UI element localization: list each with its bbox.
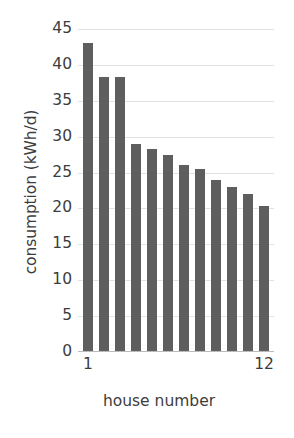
bar [179, 165, 189, 352]
bar-slot [240, 29, 256, 352]
bar [243, 194, 253, 352]
x-axis-line [78, 351, 274, 352]
x-tick-label: 1 [83, 356, 93, 373]
y-axis-tick-labels: 051015202530354045 [40, 0, 72, 438]
bar-slot [144, 29, 160, 352]
bar-slot [112, 29, 128, 352]
y-tick-label: 25 [52, 165, 72, 181]
bar-chart-figure: consumption (kWh/d) 051015202530354045 1… [0, 0, 294, 438]
y-tick-label: 40 [52, 57, 72, 73]
bar [83, 43, 93, 352]
y-tick-label: 10 [52, 272, 72, 288]
x-axis-tick-labels: 112 [78, 356, 274, 378]
bar-slot [176, 29, 192, 352]
bar-slot [128, 29, 144, 352]
x-tick-label: 12 [254, 356, 274, 373]
bar [211, 180, 221, 352]
x-axis-title: house number [0, 392, 294, 410]
y-tick-label: 45 [52, 21, 72, 37]
y-tick-label: 35 [52, 93, 72, 109]
bar [259, 206, 269, 352]
bar [131, 144, 141, 352]
bar [195, 169, 205, 352]
bar-slot [192, 29, 208, 352]
bar [163, 155, 173, 352]
bar [147, 149, 157, 352]
y-tick-label: 5 [62, 308, 72, 324]
bar [227, 187, 237, 352]
bar-slot [256, 29, 272, 352]
y-tick-label: 0 [62, 344, 72, 360]
y-tick-label: 20 [52, 201, 72, 217]
y-tick-label: 15 [52, 237, 72, 253]
bar-slot [208, 29, 224, 352]
bar-slot [80, 29, 96, 352]
bar-slot [224, 29, 240, 352]
bar [115, 77, 125, 352]
plot-area [78, 29, 274, 352]
bar-slot [160, 29, 176, 352]
bar-slot [96, 29, 112, 352]
y-tick-label: 30 [52, 129, 72, 145]
bar [99, 77, 109, 352]
bars-container [78, 29, 274, 352]
